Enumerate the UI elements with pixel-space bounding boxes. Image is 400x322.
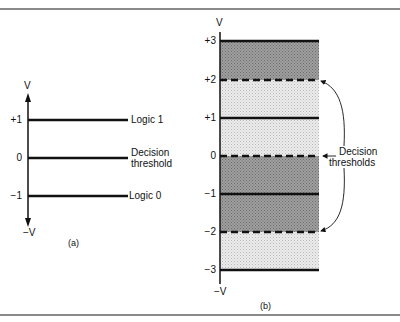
annotation-decision: Decision [339, 146, 377, 157]
panel-b-caption: (b) [260, 301, 271, 312]
annotation-thresholds: thresholds [329, 157, 375, 168]
panel-b-tick-plus1: +1 [196, 112, 216, 123]
panel-a-tick-minus1: −1 [2, 190, 22, 201]
panel-b-tick-minus1: −1 [196, 188, 216, 199]
panel-b-tick-0: 0 [196, 150, 216, 161]
arrow-up-icon [25, 93, 31, 102]
label-decision-threshold-1: Decision [131, 147, 169, 158]
panel-a-axis [25, 93, 31, 227]
panel-b-axis-bottom-label: −V [214, 286, 227, 297]
panel-b-tick-minus2: −2 [196, 226, 216, 237]
panel-a-caption: (a) [68, 238, 79, 249]
panel-b-tick-plus2: +2 [196, 74, 216, 85]
label-logic-0: Logic 0 [129, 190, 161, 201]
panel-a-tick-0: 0 [2, 152, 22, 163]
panel-b-tick-minus3: −3 [196, 264, 216, 275]
label-logic-1: Logic 1 [131, 114, 163, 125]
panel-a-tick-plus1: +1 [2, 114, 22, 125]
panel-b-axis-top-label: V [216, 17, 223, 28]
panel-b-tick-plus3: +3 [196, 35, 216, 46]
panel-a-levels [28, 120, 128, 196]
panel-a-axis-bottom-label: −V [23, 227, 36, 238]
arrow-down-icon [25, 218, 31, 227]
panel-a-axis-top-label: V [24, 80, 31, 91]
label-decision-threshold-2: threshold [131, 158, 172, 169]
